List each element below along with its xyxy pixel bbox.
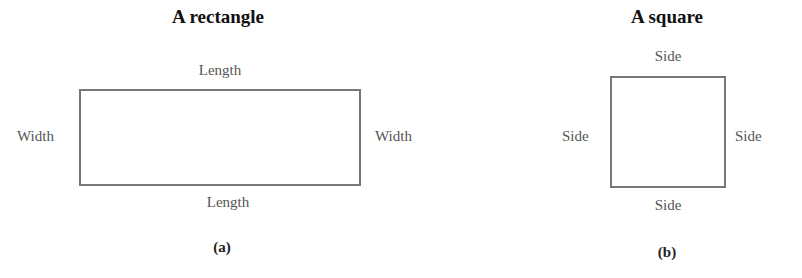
square-right-label: Side xyxy=(735,128,762,145)
rectangle-title: A rectangle xyxy=(172,6,264,28)
square-bottom-label: Side xyxy=(655,197,682,214)
square-left-label: Side xyxy=(562,128,589,145)
square-title: A square xyxy=(631,6,703,28)
caption-b: (b) xyxy=(658,244,676,261)
caption-a: (a) xyxy=(213,239,231,256)
rectangle-bottom-label: Length xyxy=(207,194,250,211)
rectangle-shape xyxy=(79,89,361,186)
rectangle-right-label: Width xyxy=(375,128,412,145)
square-top-label: Side xyxy=(655,48,682,65)
rectangle-left-label: Width xyxy=(17,128,54,145)
square-shape xyxy=(610,76,726,188)
rectangle-top-label: Length xyxy=(199,62,242,79)
